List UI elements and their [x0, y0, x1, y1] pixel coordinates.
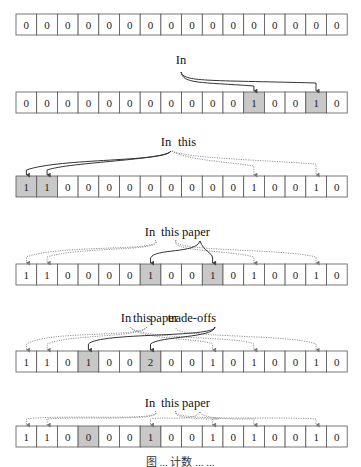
counter-value: 1	[44, 269, 50, 281]
counter-value: 0	[189, 181, 195, 193]
counter-value: 0	[148, 19, 154, 31]
counter-value: 0	[44, 97, 50, 109]
counter-value: 0	[293, 181, 299, 193]
word-label: paper	[182, 396, 211, 410]
counter-value: 1	[210, 431, 216, 443]
counter-value: 0	[86, 19, 92, 31]
counter-value: 1	[148, 431, 154, 443]
counter-value: 1	[251, 97, 257, 109]
counter-value: 1	[251, 431, 257, 443]
counter-value: 0	[169, 97, 175, 109]
counter-value: 0	[127, 356, 133, 368]
word-label: this	[161, 225, 179, 239]
word-label: this	[161, 396, 179, 410]
counter-value: 0	[189, 356, 195, 368]
counter-value: 0	[313, 19, 319, 31]
counter-value: 1	[251, 181, 257, 193]
counter-value: 0	[65, 356, 71, 368]
counter-value: 0	[106, 356, 112, 368]
counter-value: 0	[334, 181, 340, 193]
counter-value: 0	[86, 181, 92, 193]
counter-value: 0	[65, 97, 71, 109]
counter-array-row: 0000000000000000	[16, 14, 347, 35]
counter-value: 0	[272, 269, 278, 281]
counter-value: 0	[272, 97, 278, 109]
counter-array-row: 1100001001010010	[16, 264, 347, 285]
counter-value: 0	[127, 19, 133, 31]
counter-value: 0	[210, 19, 216, 31]
counter-value: 1	[251, 269, 257, 281]
counter-value: 1	[251, 356, 257, 368]
counter-value: 0	[169, 356, 175, 368]
counter-value: 0	[231, 356, 237, 368]
count-min-sketch-diagram: 0000000000000000000000000001001011000000…	[0, 0, 361, 467]
counter-value: 0	[334, 269, 340, 281]
counter-value: 0	[334, 431, 340, 443]
counter-value: 0	[189, 19, 195, 31]
counter-value: 0	[210, 97, 216, 109]
counter-value: 0	[24, 97, 30, 109]
counter-value: 0	[334, 19, 340, 31]
counter-value: 0	[231, 19, 237, 31]
counter-value: 0	[231, 97, 237, 109]
counter-value: 0	[86, 269, 92, 281]
word-label: this	[133, 311, 151, 325]
counter-value: 0	[106, 97, 112, 109]
counter-array-row: 0000000000010010	[16, 92, 347, 113]
counter-value: 0	[44, 19, 50, 31]
counter-value: 1	[148, 269, 154, 281]
counter-value: 1	[24, 431, 30, 443]
counter-value: 0	[210, 181, 216, 193]
counter-value: 1	[313, 181, 319, 193]
counter-array-row: 1101002001010010	[16, 351, 347, 372]
counter-value: 1	[24, 356, 30, 368]
counter-value: 0	[231, 431, 237, 443]
counter-value: 0	[334, 356, 340, 368]
counter-value: 0	[86, 97, 92, 109]
word-label: this	[178, 135, 196, 149]
counter-value: 0	[106, 19, 112, 31]
counter-value: 0	[293, 269, 299, 281]
word-label: In	[145, 396, 156, 410]
counter-value: 0	[231, 269, 237, 281]
counter-value: 1	[44, 356, 50, 368]
word-label: paper	[182, 225, 211, 239]
counter-value: 0	[127, 181, 133, 193]
counter-value: 0	[24, 19, 30, 31]
counter-value: 0	[293, 356, 299, 368]
counter-value: 1	[44, 431, 50, 443]
counter-value: 0	[334, 97, 340, 109]
counter-value: 1	[24, 181, 30, 193]
counter-value: 0	[169, 181, 175, 193]
counter-value: 0	[251, 19, 257, 31]
counter-value: 0	[169, 269, 175, 281]
counter-value: 1	[210, 356, 216, 368]
counter-value: 0	[148, 181, 154, 193]
counter-value: 0	[65, 181, 71, 193]
figure-caption: 图 ... 计数 ... ...	[146, 456, 215, 467]
counter-value: 1	[313, 431, 319, 443]
counter-value: 0	[127, 97, 133, 109]
counter-value: 0	[65, 269, 71, 281]
word-label: In	[121, 311, 132, 325]
counter-value: 0	[127, 269, 133, 281]
counter-value: 0	[106, 431, 112, 443]
counter-value: 0	[272, 356, 278, 368]
counter-value: 1	[313, 356, 319, 368]
counter-value: 0	[272, 19, 278, 31]
counter-value: 0	[106, 269, 112, 281]
word-label: In	[176, 53, 187, 67]
counter-value: 0	[148, 97, 154, 109]
counter-value: 0	[293, 431, 299, 443]
counter-value: 1	[44, 181, 50, 193]
counter-value: 2	[148, 356, 154, 368]
counter-value: 0	[86, 431, 92, 443]
counter-value: 0	[106, 181, 112, 193]
word-label: In	[161, 135, 172, 149]
counter-value: 0	[231, 181, 237, 193]
counter-value: 0	[127, 431, 133, 443]
counter-value: 0	[293, 97, 299, 109]
counter-value: 0	[189, 97, 195, 109]
counter-value: 0	[293, 19, 299, 31]
counter-value: 1	[313, 97, 319, 109]
